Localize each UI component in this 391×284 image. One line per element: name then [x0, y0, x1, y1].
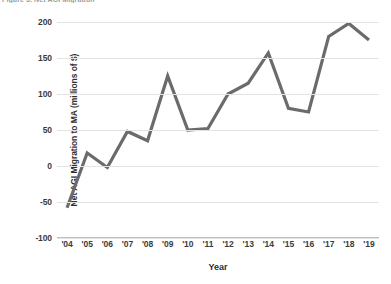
x-axis-tick-label: '13 — [243, 240, 254, 249]
gridline — [57, 94, 379, 95]
gridline — [57, 58, 379, 59]
x-axis-tick-label: '16 — [303, 240, 314, 249]
x-axis-tick-label: '05 — [82, 240, 93, 249]
y-axis-tick-label: 150 — [8, 54, 52, 63]
y-axis-tick-labels: 200150100500-50-100 — [0, 22, 52, 238]
y-axis-tick-label: 50 — [8, 126, 52, 135]
line-series-path — [67, 23, 369, 207]
plot-area — [57, 22, 379, 238]
x-axis-tick-label: '19 — [363, 240, 374, 249]
gridline — [57, 202, 379, 203]
x-axis-tick-label: '18 — [343, 240, 354, 249]
x-axis-tick-label: '04 — [61, 240, 72, 249]
x-axis-line — [57, 237, 379, 238]
x-axis-tick-label: '10 — [182, 240, 193, 249]
x-axis-tick-label: '08 — [142, 240, 153, 249]
x-axis-tick-label: '17 — [323, 240, 334, 249]
y-axis-tick-label: -50 — [8, 198, 52, 207]
figure-caption: Figure 3. Net AGI Migration — [2, 0, 95, 3]
y-axis-tick-label: -100 — [8, 234, 52, 243]
x-axis-tick-labels: '04'05'06'07'08'09'10'11'12'13'14'15'16'… — [57, 240, 379, 254]
x-axis-title: Year — [57, 262, 379, 272]
gridline — [57, 166, 379, 167]
x-axis-tick-label: '09 — [162, 240, 173, 249]
x-axis-tick-label: '12 — [222, 240, 233, 249]
chart-container: Figure 3. Net AGI Migration Net AGI Migr… — [0, 0, 391, 284]
x-axis-tick-label: '06 — [102, 240, 113, 249]
x-axis-tick-label: '15 — [283, 240, 294, 249]
x-axis-tick-label: '14 — [263, 240, 274, 249]
y-axis-tick-label: 100 — [8, 90, 52, 99]
y-axis-tick-label: 0 — [8, 162, 52, 171]
y-axis-tick-label: 200 — [8, 18, 52, 27]
x-axis-tick-label: '07 — [122, 240, 133, 249]
x-axis-tick-label: '11 — [203, 240, 214, 249]
gridline — [57, 22, 379, 23]
gridline — [57, 130, 379, 131]
